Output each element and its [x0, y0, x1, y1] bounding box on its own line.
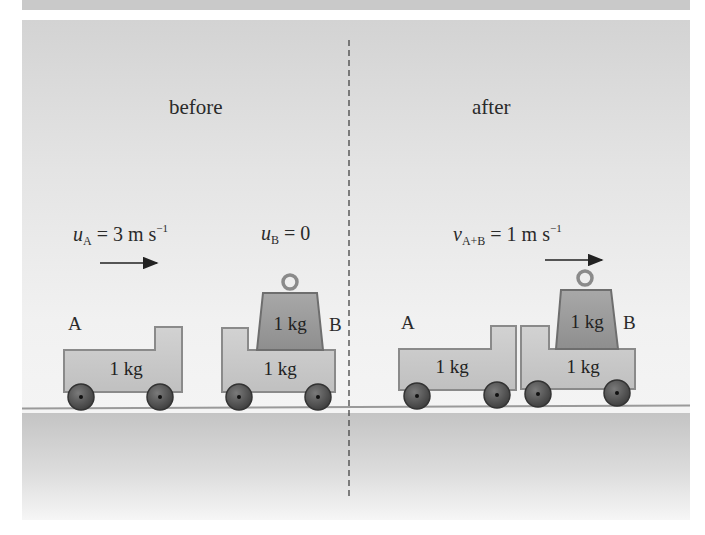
trolley-a-label-after: A	[401, 312, 415, 334]
equals: =	[284, 222, 295, 244]
equals: =	[97, 223, 108, 245]
trolley-b-label-before: B	[329, 314, 342, 336]
unit-exponent: −1	[550, 222, 562, 234]
subscript: A	[83, 234, 92, 248]
subscript: A+B	[462, 234, 485, 248]
unit: m s	[128, 223, 156, 245]
mass-ring-icon	[578, 271, 592, 285]
trolley-b-mass-after: 1 kg	[553, 356, 613, 378]
floor	[22, 406, 690, 521]
mass-ring-icon	[283, 275, 297, 289]
equals: =	[490, 223, 501, 245]
symbol: u	[261, 222, 271, 244]
value: 1	[507, 223, 517, 245]
heading-after: after	[472, 95, 510, 120]
velocity-label-b-before: uB = 0	[261, 222, 310, 248]
heading-before: before	[169, 95, 223, 120]
extra-mass-before: 1 kg	[260, 313, 320, 335]
symbol: v	[453, 223, 462, 245]
trolley-b-label-after: B	[623, 312, 636, 334]
velocity-label-ab-after: vA+B = 1 m s−1	[453, 222, 562, 249]
unit: m s	[522, 223, 550, 245]
symbol: u	[73, 223, 83, 245]
velocity-label-a-before: uA = 3 m s−1	[73, 222, 168, 249]
mass-weight-after	[556, 271, 618, 349]
value: 3	[113, 223, 123, 245]
collision-scene	[0, 0, 705, 535]
trolley-a-mass-after: 1 kg	[422, 356, 482, 378]
trolley-a-mass-before: 1 kg	[96, 358, 156, 380]
trolley-b-mass-before: 1 kg	[250, 358, 310, 380]
value: 0	[300, 222, 310, 244]
subscript: B	[271, 233, 279, 247]
unit-exponent: −1	[156, 222, 168, 234]
extra-mass-after: 1 kg	[557, 311, 617, 333]
trolley-a-label-before: A	[68, 313, 82, 335]
